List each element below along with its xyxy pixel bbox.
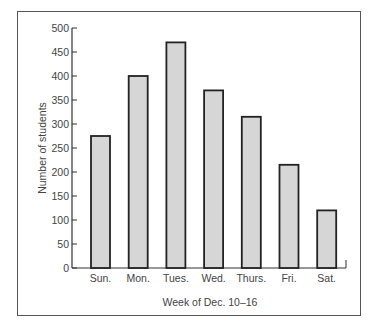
y-tick-label: 500 (51, 22, 69, 34)
bar-fri (280, 165, 299, 268)
x-category-label: Thurs. (236, 272, 266, 284)
x-category-label: Tues. (163, 272, 189, 284)
category-labels: Sun.Mon.Tues.Wed.Thurs.Fri.Sat. (90, 272, 336, 284)
y-tick-label: 400 (51, 70, 69, 82)
y-tick-label: 450 (51, 46, 69, 58)
y-tick-label: 250 (51, 142, 69, 154)
bar-tues (166, 42, 185, 268)
y-tick-label: 200 (51, 166, 69, 178)
bar-sun (91, 136, 110, 268)
bar-thurs (242, 117, 261, 268)
y-axis: 050100150200250300350400450500 (51, 22, 77, 274)
x-category-label: Fri. (281, 272, 296, 284)
bar-sat (317, 210, 336, 268)
y-tick-label: 300 (51, 118, 69, 130)
bar-mon (129, 76, 148, 268)
y-tick-label: 150 (51, 190, 69, 202)
bar-wed (204, 90, 223, 268)
x-category-label: Sun. (90, 272, 112, 284)
bar-chart: 050100150200250300350400450500 Sun.Mon.T… (0, 0, 373, 330)
y-tick-label: 50 (57, 238, 69, 250)
y-tick-label: 0 (63, 262, 69, 274)
y-tick-label: 100 (51, 214, 69, 226)
y-tick-label: 350 (51, 94, 69, 106)
y-axis-title: Number of students (36, 102, 48, 194)
bars (91, 42, 336, 268)
x-category-label: Mon. (127, 272, 150, 284)
x-category-label: Wed. (201, 272, 225, 284)
x-category-label: Sat. (317, 272, 336, 284)
x-axis-title: Week of Dec. 10–16 (163, 296, 258, 308)
